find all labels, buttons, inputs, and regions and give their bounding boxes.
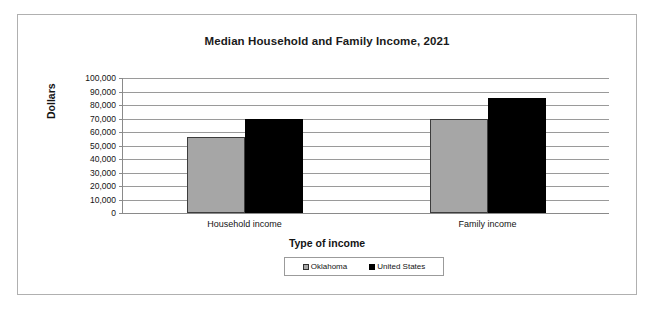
legend-item-united-states[interactable]: United States	[369, 262, 425, 271]
y-axis-tick-label: 90,000	[90, 87, 116, 97]
y-axis-tick-label: 100,000	[85, 73, 116, 83]
y-axis-title: Dollars	[45, 83, 57, 119]
y-axis-tick	[119, 159, 123, 160]
y-axis-tick	[119, 186, 123, 187]
legend-swatch-icon	[303, 264, 309, 270]
y-axis-tick-label: 70,000	[90, 114, 116, 124]
chart-legend: OklahomaUnited States	[284, 257, 444, 276]
y-axis-tick-label: 30,000	[90, 168, 116, 178]
bar-oklahoma-household-income[interactable]	[187, 137, 245, 213]
gridline	[123, 78, 609, 79]
chart-figure: Median Household and Family Income, 2021…	[17, 14, 637, 295]
x-axis-category-label: Household income	[207, 219, 282, 229]
legend-swatch-icon	[369, 264, 375, 270]
y-axis-tick	[119, 119, 123, 120]
y-axis-tick	[119, 200, 123, 201]
y-axis-tick	[119, 213, 123, 214]
y-axis-tick	[119, 78, 123, 79]
x-axis-title: Type of income	[18, 237, 636, 249]
bar-oklahoma-family-income[interactable]	[430, 119, 488, 214]
y-axis-tick	[119, 92, 123, 93]
legend-label: Oklahoma	[311, 262, 347, 271]
y-axis-tick-label: 10,000	[90, 195, 116, 205]
plot-area: 100,00090,00080,00070,00060,00050,00040,…	[122, 78, 609, 214]
y-axis-tick	[119, 146, 123, 147]
y-axis-tick-label: 60,000	[90, 127, 116, 137]
gridline	[123, 92, 609, 93]
chart-title: Median Household and Family Income, 2021	[18, 35, 636, 47]
bar-united-states-family-income[interactable]	[488, 98, 546, 213]
y-axis-tick	[119, 105, 123, 106]
y-axis-tick-label: 20,000	[90, 181, 116, 191]
y-axis-tick	[119, 173, 123, 174]
y-axis-tick-label: 50,000	[90, 141, 116, 151]
y-axis-tick	[119, 132, 123, 133]
legend-item-oklahoma[interactable]: Oklahoma	[303, 262, 347, 271]
y-axis-tick-label: 80,000	[90, 100, 116, 110]
legend-label: United States	[377, 262, 425, 271]
bar-united-states-household-income[interactable]	[245, 119, 303, 214]
y-axis-tick-label: 0	[111, 208, 116, 218]
x-axis-category-label: Family income	[458, 219, 516, 229]
y-axis-tick-label: 40,000	[90, 154, 116, 164]
